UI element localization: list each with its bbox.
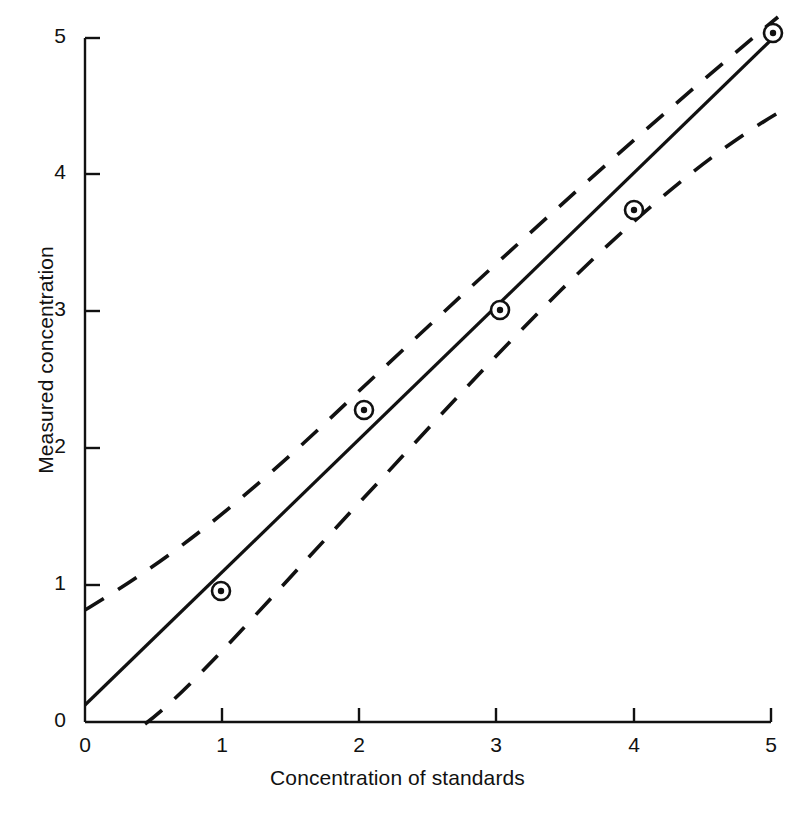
data-point-4 [625, 201, 643, 219]
y-tick-label-5: 5 [26, 24, 66, 48]
x-tick-label-0: 0 [65, 733, 105, 757]
data-point-5 [764, 24, 782, 42]
data-point-1 [212, 582, 230, 600]
y-axis-title: Measured concentration [34, 100, 58, 620]
x-tick-label-3: 3 [476, 733, 516, 757]
regression-line [85, 40, 771, 705]
data-point-2 [355, 401, 373, 419]
lower-confidence-curve [145, 113, 778, 724]
x-tick-label-2: 2 [339, 733, 379, 757]
x-tick-label-5: 5 [751, 733, 791, 757]
x-tick-marks [222, 708, 634, 722]
y-tick-label-0: 0 [26, 708, 66, 732]
x-tick-label-4: 4 [614, 733, 654, 757]
x-axis-title: Concentration of standards [0, 766, 795, 790]
upper-confidence-curve [85, 17, 778, 610]
data-point-3 [491, 301, 509, 319]
y-tick-marks [85, 174, 100, 585]
x-tick-label-1: 1 [202, 733, 242, 757]
plot-area [0, 0, 795, 819]
scatter-chart: 5 4 3 2 1 0 0 1 2 3 4 5 Concentration of… [0, 0, 795, 819]
